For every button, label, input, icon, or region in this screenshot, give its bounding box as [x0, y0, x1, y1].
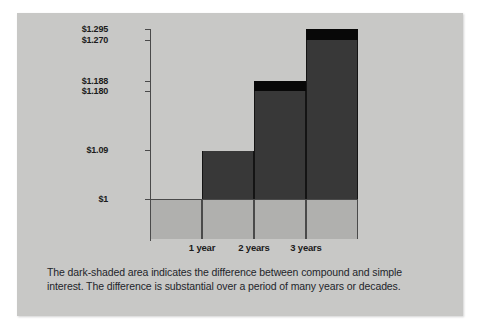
bar-segment-simple-interest [202, 151, 254, 200]
y-axis-label-1295: $1.295 [82, 24, 108, 34]
x-axis-label-1-year: 1 year [172, 242, 232, 253]
bar-segment-compound-difference [306, 29, 358, 40]
bar-segment-principal [202, 200, 254, 239]
caption-line-2: interest. The difference is substantial … [47, 279, 439, 293]
x-axis-label-3-years: 3 years [276, 242, 336, 253]
bar-group [150, 13, 358, 239]
baseline-rule-1-dollar [150, 199, 358, 200]
y-axis-label-1188: $1.188 [82, 76, 108, 86]
x-axis-label-2-years: 2 years [224, 242, 284, 253]
caption-line-1: The dark-shaded area indicates the diffe… [47, 265, 439, 279]
bar-segment-simple-interest [254, 91, 306, 200]
figure-panel: $1.295 $1.270 $1.188 $1.180 $1.09 $1 [17, 13, 463, 316]
chart-plot-area: $1.295 $1.270 $1.188 $1.180 $1.09 $1 [17, 13, 463, 256]
y-axis-label-1180: $1.180 [82, 86, 108, 96]
bar-segment-principal [150, 200, 202, 239]
figure-caption: The dark-shaded area indicates the diffe… [47, 265, 439, 293]
y-axis-label-1: $1 [98, 194, 108, 204]
y-axis-label-1270: $1.270 [82, 35, 108, 45]
bar-segment-principal [306, 200, 358, 239]
bar-segment-simple-interest [306, 40, 358, 200]
bar-segment-compound-difference [254, 81, 306, 91]
y-axis-label-109: $1.09 [86, 145, 108, 155]
bar-segment-principal [254, 200, 306, 239]
